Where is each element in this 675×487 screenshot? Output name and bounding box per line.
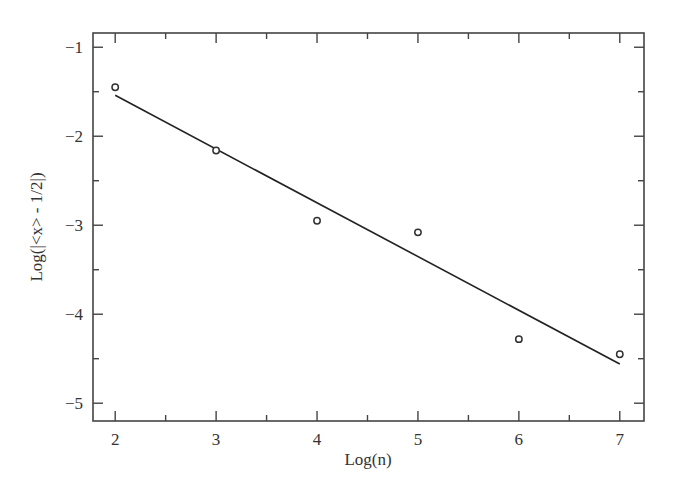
x-tick-label: 6: [515, 430, 524, 449]
tick-labels: 234567−1−2−3−4−5: [65, 38, 625, 449]
x-tick-label: 7: [616, 430, 625, 449]
plot-frame: [93, 33, 644, 421]
y-tick-label: −2: [65, 127, 83, 146]
y-tick-label: −5: [65, 394, 83, 413]
axis-ticks: [93, 33, 644, 421]
y-tick-label: −1: [65, 38, 83, 57]
data-point-circle: [213, 147, 219, 153]
data-point-circle: [617, 351, 623, 357]
fit-line: [115, 95, 620, 364]
x-tick-label: 2: [111, 430, 120, 449]
y-axis-label: Log(|<x> - 1/2|): [27, 172, 46, 281]
regression-line: [115, 95, 620, 364]
x-tick-label: 3: [212, 430, 221, 449]
x-tick-label: 5: [414, 430, 423, 449]
data-point-circle: [112, 84, 118, 90]
y-tick-label: −3: [65, 216, 83, 235]
data-point-circle: [415, 229, 421, 235]
y-tick-label: −4: [65, 305, 84, 324]
x-axis-label: Log(n): [344, 450, 391, 469]
data-point-circle: [314, 218, 320, 224]
chart: 234567−1−2−3−4−5 Log(n) Log(|<x> - 1/2|): [0, 0, 675, 487]
data-points: [112, 84, 623, 357]
data-point-circle: [516, 336, 522, 342]
x-tick-label: 4: [313, 430, 322, 449]
